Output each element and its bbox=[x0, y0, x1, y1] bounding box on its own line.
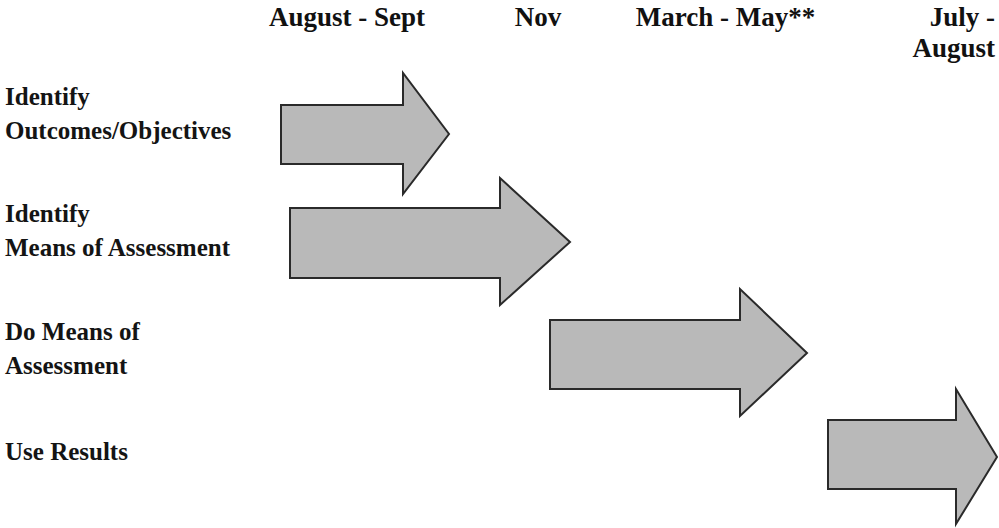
timeline-diagram: August - Sept Nov March - May** July - A… bbox=[0, 0, 999, 528]
period-header-march-may: March - May** bbox=[608, 2, 843, 33]
arrow-do-means bbox=[549, 288, 808, 418]
stage-label-identify-outcomes: Identify Outcomes/Objectives bbox=[5, 80, 290, 148]
period-header-nov: Nov bbox=[498, 2, 578, 33]
stage-label-use-results: Use Results bbox=[5, 435, 290, 469]
period-header-july-august: July - August bbox=[833, 2, 995, 64]
arrow-identify-means bbox=[289, 177, 571, 307]
period-header-august-sept: August - Sept bbox=[232, 2, 462, 33]
stage-label-use-results-text: Use Results bbox=[5, 438, 128, 465]
stage-label-identify-means: Identify Means of Assessment bbox=[5, 197, 290, 265]
stage-label-do-means: Do Means of Assessment bbox=[5, 315, 290, 383]
arrow-use-results bbox=[827, 388, 998, 526]
